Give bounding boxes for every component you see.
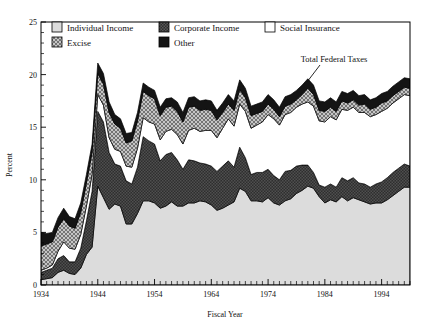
x-tick-label: 1944 bbox=[90, 290, 106, 299]
x-tick-label: 1974 bbox=[260, 290, 276, 299]
legend-label-social-insurance: Social Insurance bbox=[280, 23, 340, 33]
legend: Individual IncomeCorporate IncomeSocial … bbox=[52, 22, 340, 48]
area-bands bbox=[41, 63, 410, 285]
y-tick-label: 15 bbox=[29, 123, 37, 132]
y-tick-label: 25 bbox=[29, 18, 37, 27]
y-tick-label: 10 bbox=[29, 176, 37, 185]
x-tick-label: 1994 bbox=[374, 290, 390, 299]
annotation-leader-line bbox=[307, 65, 320, 82]
x-tick-label: 1984 bbox=[317, 290, 333, 299]
y-tick-label: 5 bbox=[33, 228, 37, 237]
legend-label-individual-income: Individual Income bbox=[67, 23, 133, 33]
x-tick-label: 1964 bbox=[203, 290, 219, 299]
legend-swatch-excise bbox=[52, 37, 62, 47]
y-tick-label: 20 bbox=[29, 71, 37, 80]
x-tick-label: 1954 bbox=[147, 290, 163, 299]
y-axis-title: Percent bbox=[5, 152, 14, 177]
stacked-area-chart: 0510152025 1934194419541964197419841994 … bbox=[0, 0, 424, 323]
legend-swatch-corporate-income bbox=[159, 22, 169, 32]
legend-swatch-individual-income bbox=[52, 22, 62, 32]
legend-label-other: Other bbox=[174, 38, 195, 48]
annotation-total-federal-taxes: Total Federal Taxes bbox=[301, 54, 368, 82]
x-tick-label: 1934 bbox=[33, 290, 49, 299]
x-axis-title: Fiscal Year bbox=[207, 310, 243, 319]
legend-label-excise: Excise bbox=[67, 38, 91, 48]
legend-swatch-other bbox=[159, 37, 169, 47]
legend-label-corporate-income: Corporate Income bbox=[174, 23, 239, 33]
annotation-label: Total Federal Taxes bbox=[301, 54, 368, 64]
y-tick-label: 0 bbox=[33, 281, 37, 290]
chart-root: 0510152025 1934194419541964197419841994 … bbox=[0, 0, 424, 323]
legend-swatch-social-insurance bbox=[265, 22, 275, 32]
